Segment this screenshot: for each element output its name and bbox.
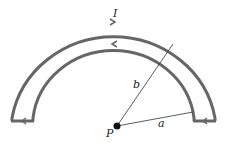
arrow-inner-left-icon [112, 41, 117, 47]
label-b: b [133, 78, 140, 91]
inner-arc [33, 50, 194, 121]
radius-a-line [117, 112, 193, 126]
label-a: a [158, 117, 165, 130]
point-p [114, 123, 121, 130]
label-p: P [105, 127, 114, 140]
current-loop-diagram: I b a P [0, 0, 228, 143]
label-current: I [112, 7, 118, 20]
